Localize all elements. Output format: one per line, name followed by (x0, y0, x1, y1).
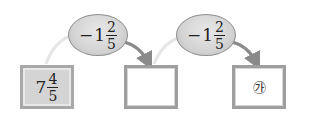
operation-2-mixed-number: − 1 2 5 (187, 20, 225, 51)
result-box[interactable]: ㉮ (232, 65, 286, 109)
result-label: ㉮ (253, 81, 266, 94)
arc-in-1 (46, 36, 70, 64)
arrow-out-1 (124, 42, 148, 62)
operation-1-whole: 1 (94, 25, 105, 45)
start-denominator: 5 (47, 89, 58, 103)
operation-1-numerator: 2 (106, 20, 117, 34)
start-numerator: 4 (47, 72, 58, 86)
operation-2-fraction: 2 5 (214, 20, 225, 51)
operation-2-whole: 1 (202, 25, 213, 45)
start-whole: 7 (36, 77, 47, 97)
arrow-out-2 (232, 42, 256, 62)
start-value-box: 7 4 5 (20, 65, 74, 109)
operation-1-fraction: 2 5 (106, 20, 117, 51)
operation-oval-1: − 1 2 5 (68, 14, 128, 56)
start-mixed-number: 7 4 5 (36, 72, 59, 103)
operation-1-sign: − (79, 25, 93, 45)
arc-in-2 (154, 38, 178, 64)
operation-2-numerator: 2 (214, 20, 225, 34)
operation-2-sign: − (187, 25, 201, 45)
start-fraction: 4 5 (47, 72, 58, 103)
middle-blank-box[interactable] (124, 65, 178, 109)
operation-1-denominator: 5 (106, 37, 117, 51)
operation-oval-2: − 1 2 5 (176, 14, 236, 56)
operation-2-denominator: 5 (214, 37, 225, 51)
operation-1-mixed-number: − 1 2 5 (79, 20, 117, 51)
